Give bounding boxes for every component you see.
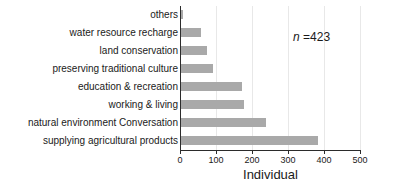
x-axis-title: Individual	[180, 167, 361, 182]
x-tick-mark	[288, 150, 289, 154]
category-label: education & recreation	[6, 78, 178, 96]
x-tick-label: 200	[244, 155, 259, 165]
chart-row: working & living	[0, 96, 394, 114]
bar-chart-figure: others water resource recharge land cons…	[0, 0, 394, 188]
bar-education-and-recreation	[181, 82, 242, 91]
x-tick-label: 300	[280, 155, 295, 165]
category-label: supplying agricultural products	[6, 132, 178, 150]
x-tick-mark	[360, 150, 361, 154]
chart-row: others	[0, 6, 394, 24]
category-label: land conservation	[6, 42, 178, 60]
chart-row: supplying agricultural products	[0, 132, 394, 150]
x-tick-mark	[180, 150, 181, 154]
category-label: water resource recharge	[6, 24, 178, 42]
x-tick-label: 100	[208, 155, 223, 165]
chart-row: natural environment Conversation	[0, 114, 394, 132]
chart-row: preserving traditional culture	[0, 60, 394, 78]
bar-supplying-agricultural-products	[181, 136, 318, 145]
x-axis-line	[180, 150, 361, 151]
x-tick-mark	[252, 150, 253, 154]
category-label: natural environment Conversation	[6, 114, 178, 132]
sample-size-annotation: n =423	[293, 30, 330, 44]
sample-size-symbol: n	[293, 30, 300, 44]
chart-row: water resource recharge	[0, 24, 394, 42]
bar-working-and-living	[181, 100, 244, 109]
bar-land-conservation	[181, 46, 207, 55]
category-label: preserving traditional culture	[6, 60, 178, 78]
x-tick-mark	[324, 150, 325, 154]
bar-water-resource-recharge	[181, 28, 201, 37]
chart-row: land conservation	[0, 42, 394, 60]
x-tick-mark	[216, 150, 217, 154]
x-tick-label: 500	[352, 155, 367, 165]
bar-others	[181, 10, 183, 19]
category-label: others	[6, 6, 178, 24]
bar-natural-environment-conversation	[181, 118, 266, 127]
x-tick-label: 0	[177, 155, 182, 165]
category-label: working & living	[6, 96, 178, 114]
bar-preserving-traditional-culture	[181, 64, 213, 73]
sample-size-value: =423	[300, 30, 330, 44]
x-tick-label: 400	[316, 155, 331, 165]
chart-row: education & recreation	[0, 78, 394, 96]
